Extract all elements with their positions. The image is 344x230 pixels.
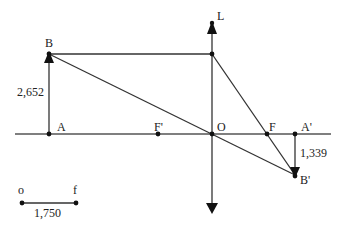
ray-through-center	[49, 54, 295, 175]
label-F-prime: F'	[154, 120, 163, 134]
lens-bottom-arrow-icon	[206, 203, 218, 214]
scale-bar-label-f: f	[73, 183, 77, 197]
label-object-height: 2,652	[17, 85, 44, 99]
lens-top-point	[210, 21, 214, 25]
point-A	[47, 132, 52, 137]
scale-bar-left-point	[20, 201, 25, 206]
scale-bar-right-point	[74, 201, 79, 206]
point-B-prime	[293, 174, 298, 179]
point-A-prime	[293, 132, 298, 137]
label-A-prime: A'	[301, 120, 312, 134]
label-F: F	[269, 120, 276, 134]
label-image-height: 1,339	[300, 146, 327, 160]
point-lens-top-intersection	[210, 52, 215, 57]
scale-bar-label-o: o	[18, 183, 24, 197]
point-B	[47, 52, 52, 57]
label-B: B	[45, 36, 53, 50]
label-L: L	[217, 9, 224, 23]
label-O: O	[217, 120, 226, 134]
scale-bar-value: 1,750	[34, 206, 61, 220]
label-A: A	[57, 120, 66, 134]
ray-through-focus	[212, 54, 295, 175]
point-O	[210, 132, 215, 137]
lens-ray-diagram: B A F' O F A' B' L 2,652 1,339 o f 1,750	[0, 0, 344, 230]
label-B-prime: B'	[300, 173, 310, 187]
